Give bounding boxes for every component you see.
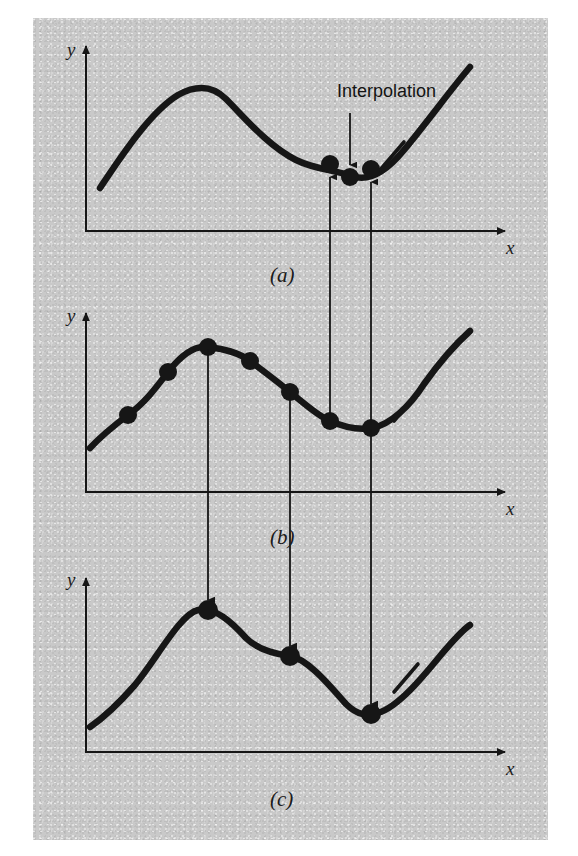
panel-a-y-axis-label: y xyxy=(67,40,75,59)
panel-c-y-axis-label: y xyxy=(67,570,75,589)
connector-group-b-to-a xyxy=(330,177,371,425)
panel-a-caption: (a) xyxy=(270,265,295,286)
panel-c-x-axis-label: x xyxy=(506,759,514,778)
figure-drawing xyxy=(0,0,578,856)
panel-c-data-point xyxy=(198,600,218,620)
panel-b-data-point xyxy=(119,406,137,424)
panel-a-data-point xyxy=(362,160,380,178)
panel-c-data-point xyxy=(280,646,300,666)
panel-b-caption: (b) xyxy=(270,527,295,548)
panel-b-x-axis-label: x xyxy=(506,499,514,518)
panel-c xyxy=(86,578,505,753)
panel-a-x-axis-label: x xyxy=(506,238,514,257)
figure-root: Interpolation y x (a) y x (b) y x (c) xyxy=(0,0,578,856)
panel-b-curve xyxy=(90,331,470,448)
panel-b-data-point xyxy=(159,363,177,381)
panel-b-tick-mark xyxy=(394,393,418,421)
interpolation-label: Interpolation xyxy=(337,82,436,100)
panel-b-y-axis-label: y xyxy=(67,306,75,325)
panel-a-data-point xyxy=(321,155,339,173)
panel-c-caption: (c) xyxy=(270,789,293,810)
panel-b-data-point xyxy=(241,352,259,370)
panel-b xyxy=(86,313,505,493)
panel-c-data-point xyxy=(361,704,381,724)
panel-a-data-point xyxy=(341,168,359,186)
panel-a xyxy=(86,46,505,232)
